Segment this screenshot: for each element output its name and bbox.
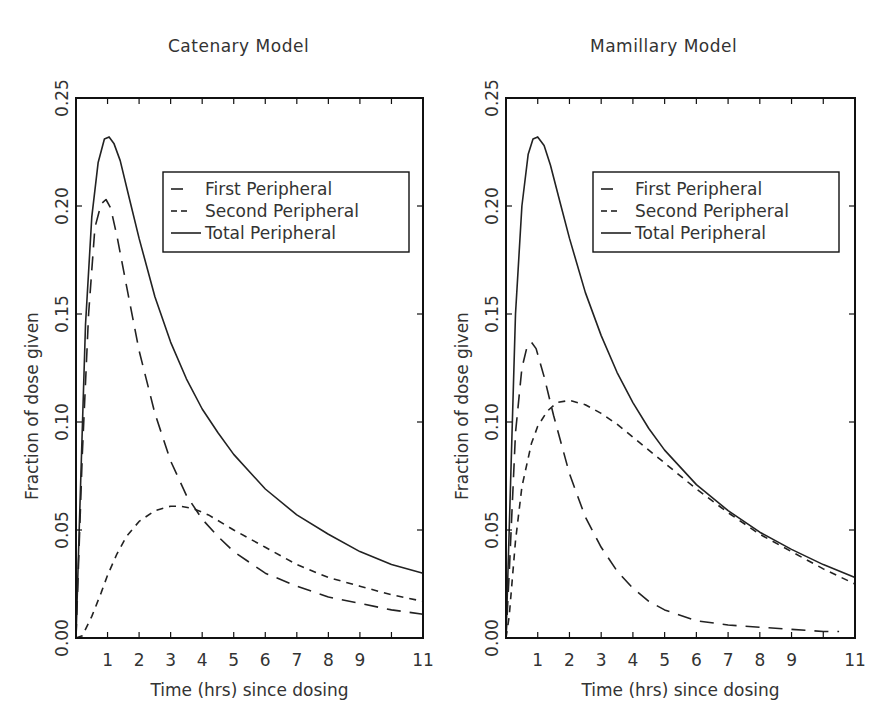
x-tick-label: 3	[165, 650, 176, 670]
x-tick-label: 5	[228, 650, 239, 670]
x-axis-label: Time (hrs) since dosing	[580, 680, 779, 700]
series-first-peripheral	[76, 200, 423, 639]
y-tick-label: 0.00	[52, 619, 72, 657]
x-tick-label: 1	[532, 650, 543, 670]
x-tick-label: 4	[197, 650, 208, 670]
legend-item-second-peripheral: Second Peripheral	[205, 201, 359, 221]
legend-item-total-peripheral: Total Peripheral	[204, 223, 336, 243]
x-tick-label: 11	[412, 650, 434, 670]
y-axis-label: Fraction of dose given	[22, 312, 42, 500]
x-tick-label: 2	[134, 650, 145, 670]
x-tick-label: 6	[691, 650, 702, 670]
x-tick-label: 9	[786, 650, 797, 670]
x-tick-label: 7	[723, 650, 734, 670]
legend-item-first-peripheral: First Peripheral	[205, 179, 332, 199]
y-tick-label: 0.10	[482, 403, 502, 441]
x-tick-label: 11	[844, 650, 866, 670]
x-tick-label: 7	[291, 650, 302, 670]
y-tick-label: 0.20	[52, 187, 72, 225]
series-first-peripheral	[506, 342, 839, 638]
y-tick-label: 0.10	[52, 403, 72, 441]
y-axis-label: Fraction of dose given	[452, 312, 472, 500]
x-tick-label: 8	[323, 650, 334, 670]
x-tick-label: 9	[354, 650, 365, 670]
x-tick-label: 8	[754, 650, 765, 670]
figure-canvas: 123456789110.000.050.100.150.200.25Time …	[0, 0, 896, 726]
x-tick-label: 2	[564, 650, 575, 670]
legend: First PeripheralSecond PeripheralTotal P…	[163, 172, 409, 252]
chart-catenary: 123456789110.000.050.100.150.200.25Time …	[22, 79, 434, 700]
y-tick-label: 0.25	[52, 79, 72, 117]
y-tick-label: 0.05	[52, 511, 72, 549]
y-tick-label: 0.15	[52, 295, 72, 333]
x-tick-label: 6	[260, 650, 271, 670]
series-second-peripheral	[506, 400, 855, 638]
chart-mamillary: 123456789110.000.050.100.150.200.25Time …	[452, 79, 866, 700]
x-tick-label: 4	[627, 650, 638, 670]
series-second-peripheral	[76, 506, 423, 638]
y-tick-label: 0.20	[482, 187, 502, 225]
x-tick-label: 3	[596, 650, 607, 670]
x-axis-label: Time (hrs) since dosing	[149, 680, 348, 700]
y-tick-label: 0.05	[482, 511, 502, 549]
x-tick-label: 1	[102, 650, 113, 670]
legend-item-total-peripheral: Total Peripheral	[634, 223, 766, 243]
legend-item-second-peripheral: Second Peripheral	[635, 201, 789, 221]
y-tick-label: 0.25	[482, 79, 502, 117]
x-tick-label: 5	[659, 650, 670, 670]
legend-item-first-peripheral: First Peripheral	[635, 179, 762, 199]
y-tick-label: 0.00	[482, 619, 502, 657]
legend: First PeripheralSecond PeripheralTotal P…	[593, 172, 839, 252]
y-tick-label: 0.15	[482, 295, 502, 333]
